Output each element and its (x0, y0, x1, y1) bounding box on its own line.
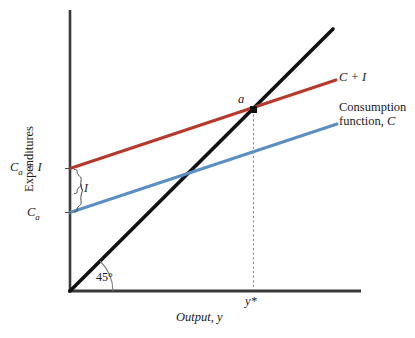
consumption-line-label-line1: Consumption (339, 100, 406, 114)
plot-area (0, 0, 415, 338)
consumption-line (70, 124, 337, 213)
x-axis-title: Output, y (176, 310, 223, 324)
forty-five-degree-line (70, 29, 333, 291)
consumption-line-label: Consumption function, C (339, 100, 406, 128)
investment-gap-label: I (84, 182, 88, 195)
angle-label: 45° (96, 271, 113, 284)
equilibrium-point-label: a (238, 92, 244, 106)
keynesian-cross-figure: Expenditures Output, y Ca + I Ca I 45° a… (0, 0, 415, 338)
intercept-lower-label: Ca (27, 205, 40, 222)
x-axis-title-text: Output, y (176, 310, 223, 324)
consumption-line-label-line2: function, C (339, 114, 395, 128)
ci-line (70, 80, 336, 169)
equilibrium-output-label: y* (245, 294, 257, 308)
intercept-upper-label: Ca + I (10, 160, 42, 177)
equilibrium-point-marker (250, 106, 257, 113)
ci-line-label: C + I (339, 70, 366, 84)
y-axis-title: Expenditures (22, 104, 36, 214)
investment-gap-brace (74, 170, 83, 194)
